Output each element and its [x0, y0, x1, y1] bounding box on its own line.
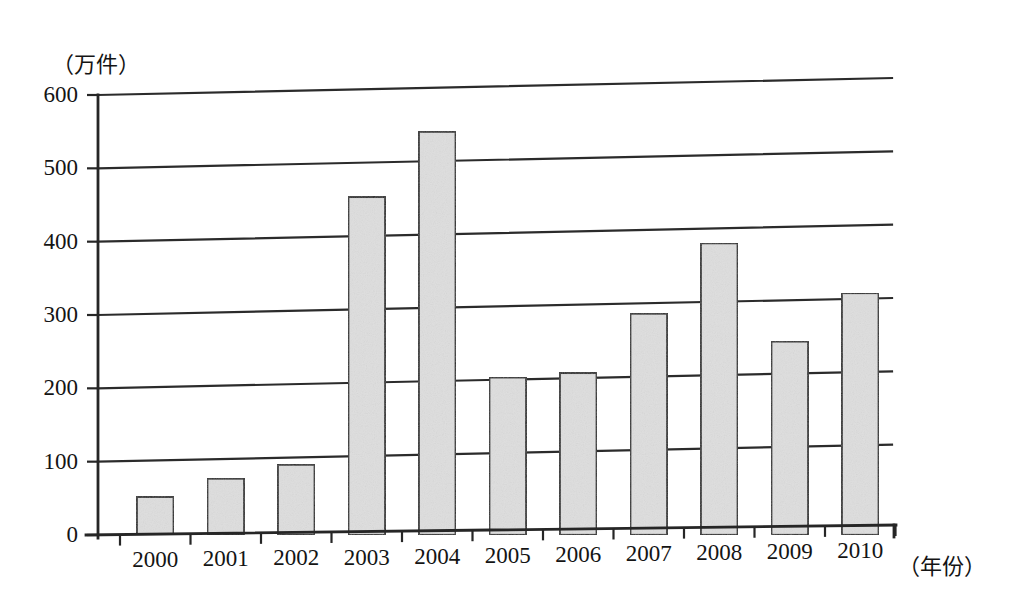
bar [560, 373, 597, 535]
gridline [98, 78, 892, 95]
bar [701, 243, 738, 535]
bar [207, 479, 244, 535]
bar [419, 132, 456, 535]
gridline [98, 225, 892, 242]
bar [278, 465, 315, 535]
gridline [98, 151, 892, 168]
bar [348, 197, 385, 535]
bar [842, 293, 879, 535]
gridline [98, 298, 892, 315]
bar [630, 314, 667, 535]
plot-area [0, 0, 1019, 607]
bar [137, 497, 174, 535]
bars [137, 132, 879, 535]
bar [489, 377, 526, 535]
bar-chart: （万件） （年份） 0100200300400500600 2000200120… [0, 0, 1019, 607]
bar [771, 341, 808, 535]
